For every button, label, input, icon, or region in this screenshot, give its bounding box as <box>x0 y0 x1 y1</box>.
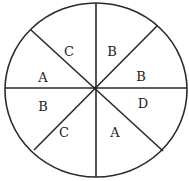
sector-label: B <box>107 44 117 59</box>
sector-label: B <box>38 99 48 114</box>
spinner-diagram: C B B D A C B A <box>0 0 189 181</box>
sector-label: A <box>109 125 120 140</box>
center-point <box>94 87 97 90</box>
sector-label: A <box>37 70 48 85</box>
sector-label: B <box>136 69 146 84</box>
sector-label: C <box>64 44 74 59</box>
sector-label: C <box>59 125 69 140</box>
sector-label: D <box>138 96 148 111</box>
